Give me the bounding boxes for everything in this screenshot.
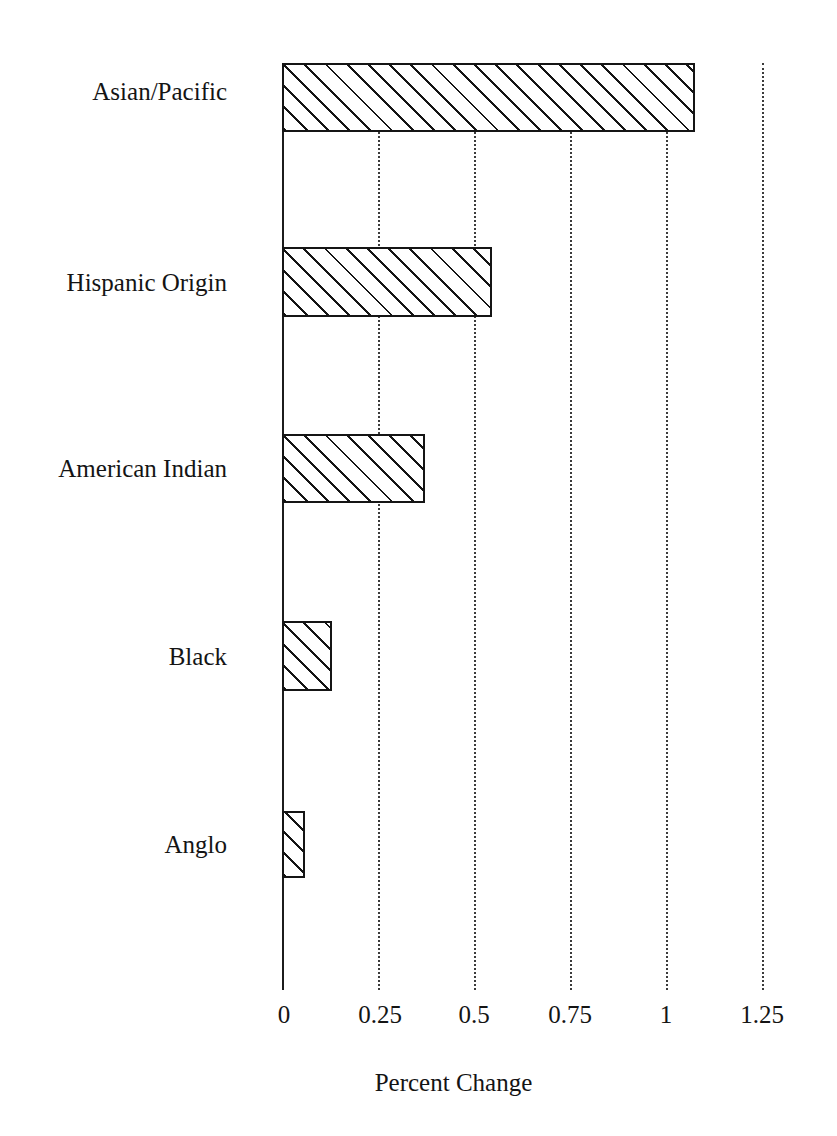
category-label-asian-pacific: Asian/Pacific [92, 79, 227, 104]
category-label-hispanic-origin: Hispanic Origin [67, 270, 227, 295]
xtick-label-0: 0 [278, 1002, 291, 1027]
xtick-label-0-5: 0.5 [458, 1002, 489, 1027]
bar-asian-pacific [282, 63, 695, 132]
gridline-1 [666, 63, 668, 990]
xtick-label-0-75: 0.75 [548, 1002, 592, 1027]
xtick-label-0-25: 0.25 [358, 1002, 402, 1027]
gridline-0-25 [378, 63, 380, 990]
category-label-american-indian: American Indian [58, 456, 227, 481]
bar-anglo [282, 811, 305, 878]
bar-hispanic-origin [282, 247, 492, 317]
bar-american-indian [282, 434, 425, 503]
xtick-label-1-25: 1.25 [740, 1002, 784, 1027]
xtick-label-1: 1 [660, 1002, 673, 1027]
bar-black [282, 621, 332, 691]
gridline-1-25 [762, 63, 764, 990]
bar-chart: Asian/Pacific Hispanic Origin American I… [0, 0, 837, 1136]
category-label-black: Black [169, 644, 227, 669]
gridline-0-5 [474, 63, 476, 990]
plot-area [282, 63, 763, 990]
gridline-0-75 [570, 63, 572, 990]
category-label-anglo: Anglo [165, 832, 228, 857]
x-axis-title-container: Percent Change [0, 1070, 837, 1095]
x-axis-title: Percent Change [375, 1070, 533, 1095]
